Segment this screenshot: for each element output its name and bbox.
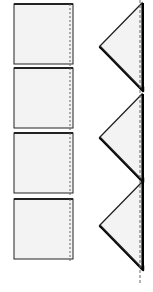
square-napkin-3 [14,132,73,195]
square-napkin-4 [14,198,73,261]
square-top-edge [14,67,73,69]
triangle-body [100,94,142,180]
square-body [14,199,73,259]
square-napkin-2 [14,67,73,130]
napkin-fold-diagram [0,0,153,292]
triangle-body [100,182,142,268]
square-top-edge [14,198,73,200]
square-top-edge [14,3,73,5]
square-top-edge [14,132,73,134]
triangles-column [100,3,143,270]
square-body [14,4,73,64]
square-napkin-1 [14,3,73,66]
folded-triangle-2 [100,94,143,182]
square-body [14,68,73,128]
folded-triangle-3 [100,182,143,270]
folded-triangle-1 [100,3,143,91]
square-body [14,133,73,193]
triangle-body [100,3,142,89]
squares-column [14,3,73,261]
